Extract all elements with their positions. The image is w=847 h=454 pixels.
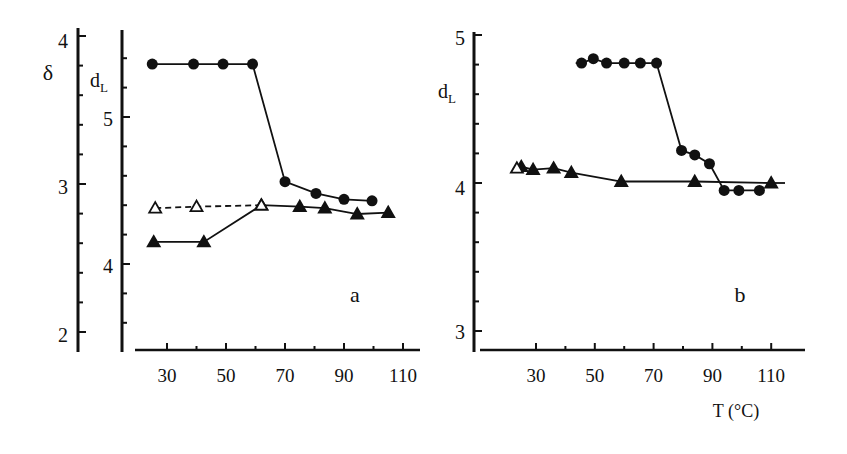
series-line (582, 59, 760, 191)
circle-marker (733, 185, 744, 196)
dL-tick-label: 4 (455, 177, 465, 199)
x-tick-label: 70 (276, 365, 295, 386)
delta-axis-label: δ (43, 60, 53, 85)
panel-a-label: a (350, 282, 360, 307)
circle-marker (188, 59, 199, 70)
dL-tick-label: 5 (455, 27, 465, 49)
circle-marker (719, 185, 730, 196)
figure: 234δ45dL30507090110 345dL30507090110 a b… (0, 0, 847, 454)
circle-marker (704, 158, 715, 169)
circle-marker (247, 59, 258, 70)
circle-marker (147, 59, 158, 70)
dL-tick-label: 5 (103, 108, 113, 130)
panel-a: 234δ45dL30507090110 (43, 28, 420, 386)
x-tick-label: 110 (757, 365, 785, 386)
series-line (154, 205, 389, 242)
circle-marker (280, 176, 291, 187)
dL-tick-label: 3 (455, 321, 465, 343)
circle-marker (754, 185, 765, 196)
x-tick-label: 90 (335, 365, 354, 386)
x-tick-label: 70 (644, 365, 663, 386)
circle-marker (367, 195, 378, 206)
x-tick-label: 30 (527, 365, 546, 386)
series-line (521, 167, 771, 183)
x-tick-label: 30 (158, 365, 177, 386)
x-tick-label: 50 (217, 365, 236, 386)
x-tick-label: 50 (585, 365, 604, 386)
dL-axis-label: dL (90, 69, 108, 95)
circle-marker (635, 58, 646, 69)
circle-marker (689, 149, 700, 160)
circle-marker (601, 58, 612, 69)
panel-b: 345dL30507090110 (438, 27, 805, 386)
circle-marker (619, 58, 630, 69)
delta-tick-label: 2 (58, 324, 68, 346)
circle-marker (676, 145, 687, 156)
circle-marker (310, 188, 321, 199)
series-line (152, 64, 372, 201)
circle-marker (588, 53, 599, 64)
series-line (155, 205, 261, 208)
x-tick-label: 110 (389, 365, 417, 386)
dL-axis-label: dL (438, 80, 456, 106)
delta-tick-label: 4 (58, 30, 68, 52)
circle-marker (218, 59, 229, 70)
x-tick-label: 90 (703, 365, 722, 386)
circle-marker (651, 58, 662, 69)
panel-b-label: b (735, 282, 746, 307)
x-axis-title: T (°C) (713, 401, 759, 422)
delta-tick-label: 3 (58, 176, 68, 198)
circle-marker (339, 194, 350, 205)
filled-triangle-marker (548, 162, 560, 173)
dL-tick-label: 4 (103, 255, 113, 277)
circle-marker (576, 58, 587, 69)
filled-triangle-marker (382, 207, 394, 218)
